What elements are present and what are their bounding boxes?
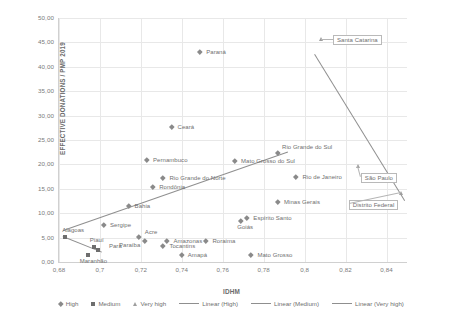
data-point-label: Piauí	[90, 237, 104, 243]
gridline-horizontal	[59, 164, 407, 165]
label-leader-line	[321, 39, 333, 40]
gridline-vertical	[387, 18, 388, 262]
data-point-label: Goiás	[237, 224, 253, 230]
y-axis-tick-label: 5,00	[8, 234, 54, 241]
data-point-label: Rio Grande do Norte	[169, 175, 225, 181]
gridline-vertical	[182, 18, 183, 262]
square-marker-icon	[96, 248, 100, 252]
legend-label: Linear (Medium)	[274, 300, 319, 307]
data-point-label: Acre	[145, 229, 158, 235]
y-axis-title: EFFECTIVE DONATIONS / PMP 2019	[59, 29, 66, 169]
legend-triangle-marker-icon	[133, 302, 137, 306]
y-axis-tick-label: 30,00	[8, 112, 54, 119]
data-point-label: Paraíba	[119, 242, 140, 248]
legend-item[interactable]: Linear (Medium)	[251, 300, 319, 307]
data-point-label: Pernambuco	[153, 157, 188, 163]
x-axis-tick-label: 0,78	[244, 266, 284, 273]
chart-legend: HighMediumVery highLinear (High)Linear (…	[0, 300, 463, 307]
legend-item[interactable]: Linear (Very high)	[332, 300, 404, 307]
gridline-horizontal	[59, 67, 407, 68]
legend-label: Linear (Very high)	[355, 300, 404, 307]
legend-item[interactable]: Medium	[91, 300, 120, 307]
legend-label: Linear (High)	[202, 300, 238, 307]
legend-item[interactable]: High	[59, 300, 78, 307]
data-point-label: Alagoas	[62, 227, 84, 233]
scatter-chart: 0,005,0010,0015,0020,0025,0030,0035,0040…	[0, 0, 463, 324]
data-point-label: Bahia	[135, 203, 151, 209]
y-axis-tick-label: 20,00	[8, 160, 54, 167]
y-axis-tick-label: 0,00	[8, 258, 54, 265]
gridline-vertical	[141, 18, 142, 262]
y-axis-tick-label: 50,00	[8, 14, 54, 21]
x-axis-tick-label: 0,72	[121, 266, 161, 273]
gridline-horizontal	[59, 18, 407, 19]
y-axis-tick-label: 10,00	[8, 209, 54, 216]
data-point-label: São Paulo	[361, 173, 397, 183]
data-point-label: Minas Gerais	[284, 199, 320, 205]
x-axis-tick-label: 0,82	[326, 266, 366, 273]
legend-line-icon	[332, 303, 352, 304]
x-axis-tick-label: 0,8	[285, 266, 325, 273]
data-point-label: Ceará	[178, 124, 195, 130]
y-axis-tick-label: 25,00	[8, 136, 54, 143]
data-point-label: Pará	[109, 243, 122, 249]
gridline-vertical	[100, 18, 101, 262]
square-marker-icon	[86, 253, 90, 257]
gridline-vertical	[346, 18, 347, 262]
data-point-label: Rio Grande do Sul	[282, 144, 332, 150]
y-axis-tick-label: 45,00	[8, 38, 54, 45]
data-point-label: Paraná	[206, 49, 226, 55]
legend-label: Very high	[140, 300, 166, 307]
y-axis-tick-label: 40,00	[8, 63, 54, 70]
legend-item[interactable]: Very high	[133, 300, 166, 307]
legend-label: Medium	[98, 300, 120, 307]
data-point-label: Maranhão	[80, 258, 107, 264]
data-point-label: Espírito Santo	[253, 215, 291, 221]
x-axis-tick-label: 0,7	[80, 266, 120, 273]
y-axis-tick-label: 15,00	[8, 185, 54, 192]
x-axis-tick-label: 0,68	[39, 266, 79, 273]
legend-line-icon	[179, 303, 199, 304]
legend-item[interactable]: Linear (High)	[179, 300, 238, 307]
legend-line-icon	[251, 303, 271, 304]
data-point-label: Tocantins	[169, 243, 195, 249]
x-axis-title: IDHM	[0, 288, 463, 295]
data-point-label: Roraima	[212, 238, 235, 244]
data-point-label: Mato Grosso	[257, 252, 292, 258]
data-point-label: Rio de Janeiro	[302, 174, 341, 180]
x-axis-line	[58, 262, 407, 263]
data-point-label: Rondônia	[159, 184, 185, 190]
square-marker-icon	[63, 235, 67, 239]
data-point-label: Santa Catarina	[333, 35, 382, 45]
gridline-horizontal	[59, 91, 407, 92]
legend-label: High	[66, 300, 79, 307]
legend-square-marker-icon	[91, 302, 95, 306]
gridline-vertical	[264, 18, 265, 262]
x-axis-tick-label: 0,74	[162, 266, 202, 273]
gridline-vertical	[305, 18, 306, 262]
x-axis-tick-label: 0,76	[203, 266, 243, 273]
data-point-label: Mato Grosso do Sul	[241, 158, 295, 164]
data-point-label: Amapá	[188, 252, 207, 258]
gridline-horizontal	[59, 140, 407, 141]
gridline-horizontal	[59, 116, 407, 117]
x-axis-tick-label: 0,84	[367, 266, 407, 273]
legend-diamond-marker-icon	[58, 301, 63, 306]
gridline-horizontal	[59, 189, 407, 190]
y-axis-tick-label: 35,00	[8, 87, 54, 94]
data-point-label: Sergipe	[110, 222, 131, 228]
